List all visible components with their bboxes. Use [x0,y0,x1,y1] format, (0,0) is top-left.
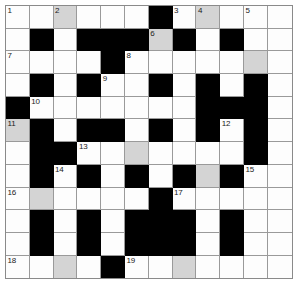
crossword-cell[interactable] [220,142,244,165]
crossword-cell[interactable] [244,233,268,256]
crossword-cell[interactable] [54,97,78,120]
crossword-cell[interactable] [268,142,292,165]
crossword-cell[interactable] [196,256,220,279]
crossword-cell[interactable] [6,210,30,233]
crossword-cell[interactable]: 16 [6,188,30,211]
crossword-cell[interactable] [268,6,292,29]
crossword-cell[interactable]: 2 [54,6,78,29]
crossword-cell[interactable] [149,165,173,188]
crossword-cell[interactable] [125,188,149,211]
crossword-cell[interactable] [54,188,78,211]
crossword-cell[interactable] [30,188,54,211]
crossword-cell[interactable] [54,51,78,74]
crossword-cell[interactable] [173,256,197,279]
crossword-cell[interactable] [101,233,125,256]
crossword-cell[interactable]: 6 [149,29,173,52]
crossword-cell[interactable] [244,29,268,52]
crossword-cell[interactable] [173,97,197,120]
crossword-cell[interactable]: 5 [244,6,268,29]
crossword-cell[interactable] [268,119,292,142]
crossword-cell[interactable] [54,256,78,279]
crossword-cell[interactable] [6,29,30,52]
crossword-cell[interactable] [30,6,54,29]
crossword-cell[interactable] [149,142,173,165]
crossword-cell[interactable] [101,6,125,29]
crossword-cell[interactable] [244,210,268,233]
crossword-cell[interactable] [101,188,125,211]
crossword-cell[interactable]: 15 [244,165,268,188]
crossword-cell[interactable] [220,6,244,29]
crossword-cell[interactable] [173,51,197,74]
crossword-cell[interactable] [196,210,220,233]
crossword-cell[interactable] [101,165,125,188]
crossword-cell[interactable] [196,51,220,74]
crossword-cell[interactable] [54,233,78,256]
crossword-cell[interactable] [77,256,101,279]
crossword-cell[interactable]: 10 [30,97,54,120]
crossword-cell[interactable] [54,119,78,142]
crossword-cell[interactable] [220,51,244,74]
crossword-cell[interactable] [268,29,292,52]
crossword-cell[interactable] [268,188,292,211]
crossword-cell[interactable]: 13 [77,142,101,165]
crossword-cell[interactable] [125,119,149,142]
crossword-cell[interactable] [196,188,220,211]
crossword-cell[interactable] [30,256,54,279]
crossword-cell[interactable] [125,74,149,97]
crossword-cell[interactable] [54,210,78,233]
crossword-cell[interactable] [244,188,268,211]
crossword-cell[interactable] [244,256,268,279]
crossword-cell[interactable] [54,74,78,97]
crossword-cell[interactable] [149,51,173,74]
crossword-cell[interactable] [30,51,54,74]
crossword-cell[interactable] [220,74,244,97]
crossword-cell[interactable] [196,142,220,165]
crossword-cell[interactable] [101,142,125,165]
crossword-cell[interactable] [268,256,292,279]
crossword-cell[interactable] [125,97,149,120]
crossword-cell[interactable] [6,74,30,97]
crossword-cell[interactable]: 8 [125,51,149,74]
crossword-cell[interactable]: 11 [6,119,30,142]
crossword-cell[interactable] [54,29,78,52]
crossword-cell[interactable]: 9 [101,74,125,97]
crossword-cell[interactable] [220,256,244,279]
crossword-cell[interactable] [77,6,101,29]
crossword-cell[interactable]: 1 [6,6,30,29]
crossword-cell[interactable]: 14 [54,165,78,188]
crossword-cell[interactable] [196,165,220,188]
crossword-cell[interactable] [268,97,292,120]
crossword-cell[interactable]: 19 [125,256,149,279]
crossword-cell[interactable] [173,142,197,165]
crossword-cell[interactable] [6,233,30,256]
crossword-cell[interactable] [244,51,268,74]
crossword-cell[interactable] [196,29,220,52]
crossword-cell[interactable] [149,256,173,279]
crossword-cell[interactable] [196,233,220,256]
crossword-cell[interactable] [268,233,292,256]
crossword-cell[interactable] [125,142,149,165]
crossword-cell[interactable]: 7 [6,51,30,74]
crossword-cell[interactable]: 3 [173,6,197,29]
crossword-cell[interactable] [125,6,149,29]
crossword-cell[interactable] [77,51,101,74]
crossword-cell[interactable] [173,74,197,97]
crossword-cell[interactable] [173,119,197,142]
crossword-cell[interactable] [268,165,292,188]
crossword-cell[interactable] [268,74,292,97]
crossword-cell[interactable] [101,210,125,233]
crossword-cell[interactable] [220,188,244,211]
crossword-cell[interactable] [77,188,101,211]
crossword-cell[interactable] [268,51,292,74]
crossword-cell[interactable]: 17 [173,188,197,211]
crossword-cell[interactable]: 18 [6,256,30,279]
crossword-cell[interactable] [149,97,173,120]
crossword-cell[interactable]: 4 [196,6,220,29]
crossword-cell[interactable] [101,97,125,120]
crossword-cell[interactable] [6,142,30,165]
crossword-cell[interactable] [6,165,30,188]
crossword-cell[interactable] [77,97,101,120]
crossword-grid[interactable]: 12345678910111213141516171819 [5,5,293,279]
crossword-cell[interactable]: 12 [220,119,244,142]
crossword-cell[interactable] [268,210,292,233]
